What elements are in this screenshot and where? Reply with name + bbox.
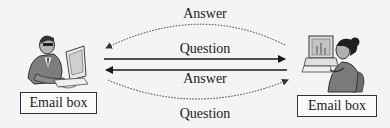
sender-email-box: Email box bbox=[20, 92, 97, 114]
bottom-question-label: Question bbox=[180, 106, 231, 122]
question-solid-label: Question bbox=[180, 41, 231, 57]
answer-solid-label: Answer bbox=[183, 71, 227, 87]
top-answer-label: Answer bbox=[183, 6, 227, 22]
woman-at-computer-icon bbox=[302, 36, 364, 92]
man-at-computer-icon bbox=[28, 36, 88, 88]
email-exchange-diagram: Answer Question Answer Question Email bo… bbox=[0, 0, 390, 128]
receiver-email-box: Email box bbox=[297, 95, 377, 117]
